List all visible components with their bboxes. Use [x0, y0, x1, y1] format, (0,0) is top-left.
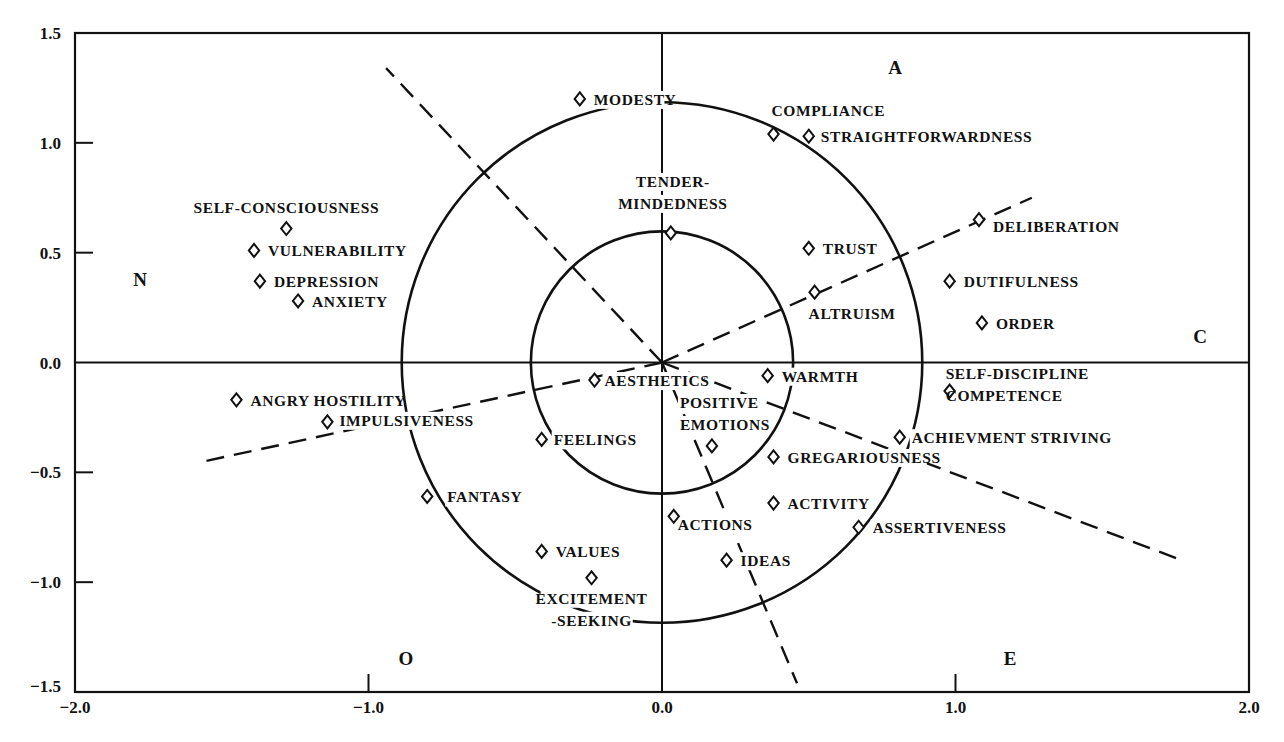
point-label: IDEAS	[741, 552, 791, 569]
x-tick-label: 1.0	[945, 698, 966, 717]
factor-label-a: A	[888, 57, 902, 78]
diamond-marker	[974, 213, 984, 226]
diamond-marker	[231, 393, 241, 406]
point-label: FEELINGS	[554, 431, 637, 448]
point-label: ANXIETY	[312, 293, 388, 310]
point-label: SELF-DISCIPLINE	[946, 365, 1089, 382]
data-points	[231, 92, 987, 584]
diamond-marker	[666, 226, 676, 239]
chart: MODESTYCOMPLIANCESTRAIGHTFORWARDNESSTEND…	[0, 0, 1284, 742]
point-label: SELF-CONSCIOUSNESS	[193, 199, 379, 216]
point-label: ORDER	[996, 315, 1055, 332]
diamond-marker	[809, 286, 819, 299]
diamond-marker	[768, 497, 778, 510]
point-label: MINDEDNESS	[618, 195, 727, 212]
diamond-marker	[707, 439, 717, 452]
point-label: MODESTY	[594, 91, 677, 108]
point-label: COMPLIANCE	[772, 102, 886, 119]
point-label: EMOTIONS	[680, 416, 770, 433]
point-label: DEPRESSION	[274, 273, 379, 290]
y-tick-label: 1.0	[40, 134, 61, 153]
point-label: ANGRY HOSTILITY	[250, 392, 406, 409]
diamond-marker	[536, 433, 546, 446]
diamond-marker	[422, 490, 432, 503]
point-label: ACTIVITY	[788, 495, 870, 512]
y-tick-label: −1.5	[30, 677, 61, 696]
y-tick-label: −1.0	[30, 573, 61, 592]
factor-label-o: O	[399, 648, 414, 669]
y-tick-label: 1.5	[40, 24, 61, 43]
point-label: VALUES	[556, 543, 620, 560]
x-tick-label: −1.0	[353, 698, 384, 717]
x-tick-label: 0.0	[651, 698, 672, 717]
diamond-marker	[293, 294, 303, 307]
point-label: ALTRUISM	[809, 305, 896, 322]
diamond-marker	[804, 130, 814, 143]
diamond-marker	[255, 275, 265, 288]
point-label: TENDER-	[636, 173, 710, 190]
diamond-marker	[586, 571, 596, 584]
diamond-marker	[768, 450, 778, 463]
diamond-marker	[853, 521, 863, 534]
y-tick-label: 0.0	[40, 354, 61, 373]
y-tick-label: −0.5	[30, 463, 61, 482]
factor-label-n: N	[133, 269, 147, 290]
point-label: POSITIVE	[680, 394, 759, 411]
x-tick-label: −2.0	[60, 698, 91, 717]
diamond-marker	[977, 316, 987, 329]
factor-label-e: E	[1004, 648, 1017, 669]
diamond-marker	[721, 554, 731, 567]
diamond-marker	[536, 545, 546, 558]
factor-vector-n-axis	[386, 68, 662, 362]
point-label: DUTIFULNESS	[964, 273, 1079, 290]
point-label: ACTIONS	[678, 516, 753, 533]
point-label: ASSERTIVENESS	[873, 519, 1007, 536]
point-label: AESTHETICS	[604, 372, 709, 389]
y-tick-label: 0.5	[40, 244, 61, 263]
point-label: VULNERABILITY	[268, 242, 407, 259]
point-label: ACHIEVMENT STRIVING	[912, 429, 1112, 446]
point-label: DELIBERATION	[993, 218, 1120, 235]
diamond-marker	[895, 431, 905, 444]
point-label: WARMTH	[782, 368, 859, 385]
diamond-marker	[322, 415, 332, 428]
diamond-marker	[944, 275, 954, 288]
point-label: STRAIGHTFORWARDNESS	[821, 128, 1033, 145]
point-label: GREGARIOUSNESS	[788, 449, 941, 466]
diamond-marker	[762, 369, 772, 382]
point-labels: MODESTYCOMPLIANCESTRAIGHTFORWARDNESSTEND…	[193, 91, 1119, 629]
label-backgrounds	[196, 91, 1112, 630]
x-tick-label: 2.0	[1238, 698, 1259, 717]
diamond-marker	[575, 92, 585, 105]
diamond-marker	[804, 242, 814, 255]
point-label: IMPULSIVENESS	[339, 412, 473, 429]
point-label: FANTASY	[447, 488, 522, 505]
point-label: -SEEKING	[551, 612, 632, 629]
point-label: TRUST	[823, 240, 878, 257]
factor-label-c: C	[1193, 326, 1207, 347]
diamond-marker	[249, 244, 259, 257]
diamond-marker	[281, 222, 291, 235]
point-label: EXCITEMENT	[536, 590, 648, 607]
point-label: COMPETENCE	[946, 387, 1063, 404]
